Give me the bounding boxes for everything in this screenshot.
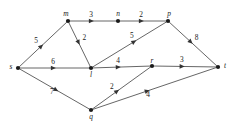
edge-p-t [169, 22, 217, 66]
arrowhead-m-n [89, 19, 94, 24]
arrowhead-n-p [139, 19, 144, 24]
node-label-m: m [63, 9, 69, 18]
node-p[interactable] [166, 19, 170, 23]
edge-weight-q-r: 2 [110, 82, 114, 91]
edge-q-r [92, 67, 150, 109]
edge-weight-s-m: 5 [34, 36, 38, 45]
graph-figure: smnplrtq 532265438724 [0, 0, 234, 128]
node-s[interactable] [16, 66, 20, 70]
edge-weight-l-p: 5 [130, 31, 134, 40]
edge-weight-q-t: 4 [146, 90, 150, 99]
edge-weights-layer: 532265438724 [34, 10, 199, 99]
arrowhead-q-r [114, 90, 119, 95]
edge-weight-p-t: 8 [195, 33, 199, 42]
edge-weight-n-p: 2 [139, 10, 143, 19]
edge-weight-m-n: 3 [89, 10, 93, 19]
node-label-s: s [10, 62, 13, 71]
edge-weight-s-q: 7 [50, 87, 54, 96]
node-m[interactable] [66, 19, 70, 23]
arrowhead-l-r [116, 65, 121, 70]
edge-weight-l-r: 4 [116, 56, 120, 65]
nodes-layer [16, 19, 220, 112]
node-label-r: r [151, 56, 154, 65]
node-n[interactable] [116, 19, 120, 23]
edge-l-p [92, 22, 166, 67]
arrowhead-l-p [131, 40, 136, 45]
edges-layer [19, 21, 217, 109]
node-label-t: t [224, 61, 227, 70]
edge-r-t [154, 66, 217, 67]
node-label-q: q [89, 112, 93, 121]
arrowhead-r-t [180, 64, 185, 69]
edge-weight-s-l: 6 [51, 57, 55, 66]
graph-canvas: smnplrtq 532265438724 [0, 0, 234, 128]
node-label-l: l [90, 70, 92, 79]
edge-l-r [93, 66, 151, 68]
edge-weight-r-t: 3 [180, 55, 184, 64]
arrowhead-s-l [51, 66, 56, 71]
node-label-p: p [166, 9, 171, 18]
node-t[interactable] [216, 65, 220, 69]
edge-weight-m-l: 2 [83, 33, 87, 42]
node-label-n: n [116, 9, 120, 18]
